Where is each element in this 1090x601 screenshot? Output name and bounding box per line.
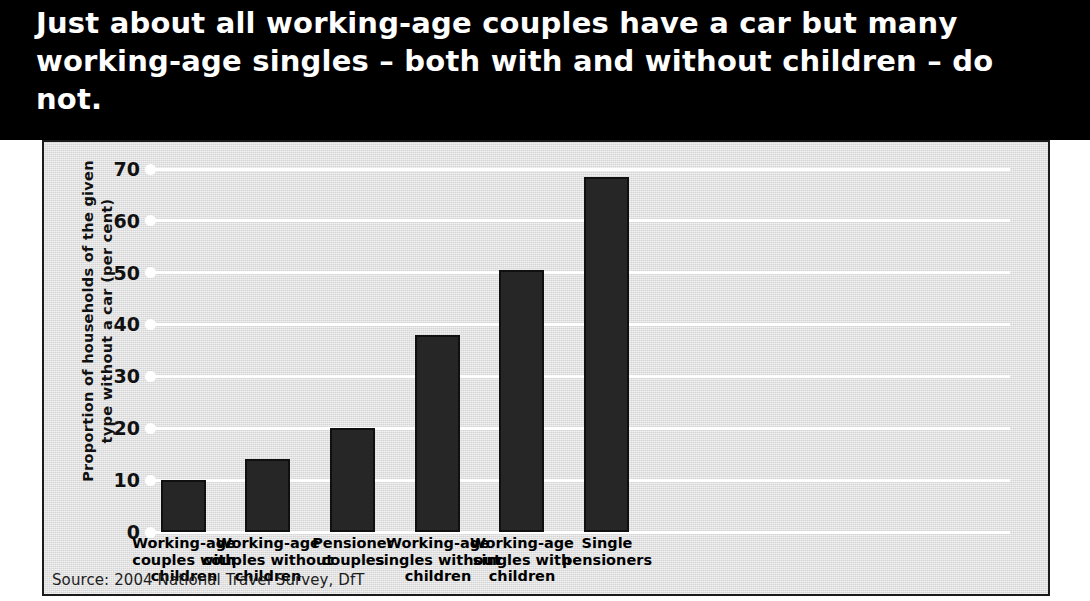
gridline-dot-60: [145, 215, 156, 226]
y-tick-10: 10: [64, 469, 140, 491]
gridline-dot-50: [145, 267, 156, 278]
y-tick-50: 50: [64, 262, 140, 284]
gridline-20: [150, 427, 1010, 430]
y-tick-30: 30: [64, 365, 140, 387]
y-tick-label-70: 70: [80, 158, 140, 180]
gridline-40: [150, 323, 1010, 326]
plot-area: Proportion of households of the given ty…: [44, 142, 1048, 594]
gridline-50: [150, 271, 1010, 274]
gridline-30: [150, 375, 1010, 378]
source-note: Source: 2004 National Travel Survey, DfT: [52, 571, 365, 589]
gridline-dot-70: [145, 164, 156, 175]
y-tick-70: 70: [64, 158, 140, 180]
bar-working-age-singles-without-children[interactable]: [415, 335, 460, 532]
page-title: Just about all working-age couples have …: [36, 4, 1046, 118]
bar-working-age-singles-with-children[interactable]: [499, 270, 544, 532]
gridline-dot-40: [145, 319, 156, 330]
bar-working-age-couples-without-children[interactable]: [245, 459, 290, 532]
y-tick-label-60: 60: [80, 210, 140, 232]
y-tick-40: 40: [64, 313, 140, 335]
gridline-dot-30: [145, 371, 156, 382]
y-tick-label-10: 10: [80, 469, 140, 491]
bar-pensioner-couples[interactable]: [330, 428, 375, 532]
bar-working-age-couples-with-children[interactable]: [161, 480, 206, 532]
gridline-dot-10: [145, 475, 156, 486]
y-tick-label-50: 50: [80, 262, 140, 284]
chart-panel: Proportion of households of the given ty…: [42, 140, 1050, 596]
y-tick-20: 20: [64, 417, 140, 439]
bar-single-pensioners[interactable]: [584, 177, 629, 532]
title-band: Just about all working-age couples have …: [0, 0, 1090, 140]
gridline-70: [150, 168, 1010, 171]
x-tick-label-single-pensioners: Single pensioners: [546, 535, 668, 568]
y-tick-60: 60: [64, 210, 140, 232]
y-tick-label-40: 40: [80, 313, 140, 335]
y-tick-label-30: 30: [80, 365, 140, 387]
y-tick-label-20: 20: [80, 417, 140, 439]
gridline-60: [150, 219, 1010, 222]
gridline-dot-20: [145, 423, 156, 434]
